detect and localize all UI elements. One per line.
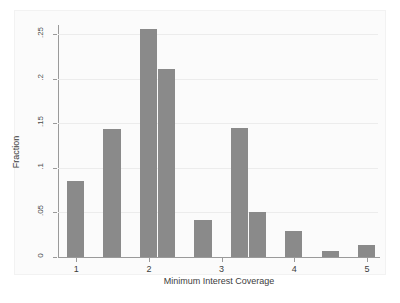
y-tick-label: .05	[36, 199, 45, 223]
x-tick-label: 4	[284, 264, 304, 274]
y-tick-mark	[53, 257, 57, 258]
gridline	[58, 34, 378, 35]
gridline	[58, 123, 378, 124]
x-axis-ticks: 12345	[58, 258, 380, 276]
x-axis-title: Minimum Interest Coverage	[58, 276, 380, 286]
x-tick-mark	[149, 258, 150, 262]
histogram-bar	[103, 129, 120, 257]
histogram-bar	[358, 245, 375, 257]
histogram-bar	[231, 128, 248, 257]
histogram-bar	[158, 69, 175, 257]
x-tick-mark	[367, 258, 368, 262]
x-tick-label: 1	[66, 264, 86, 274]
y-tick-label: 0	[36, 244, 45, 268]
histogram-bar	[67, 181, 84, 257]
x-tick-label: 5	[357, 264, 377, 274]
x-tick-mark	[294, 258, 295, 262]
x-tick-label: 3	[212, 264, 232, 274]
histogram-bar	[322, 251, 339, 257]
histogram-bar	[194, 220, 211, 257]
y-tick-label: .2	[36, 65, 45, 89]
y-tick-label: .25	[36, 20, 45, 44]
y-tick-label: .1	[36, 154, 45, 178]
histogram-figure: Fraction 0.05.1.15.2.25 12345 Minimum In…	[0, 0, 400, 303]
histogram-bar	[140, 29, 157, 257]
y-tick-label: .15	[36, 110, 45, 134]
y-tick-mark	[53, 34, 57, 35]
y-axis-title: Fraction	[11, 135, 21, 168]
x-tick-label: 2	[139, 264, 159, 274]
x-tick-mark	[76, 258, 77, 262]
y-tick-mark	[53, 79, 57, 80]
gridline	[58, 79, 378, 80]
histogram-bar	[249, 212, 266, 258]
y-tick-mark	[53, 168, 57, 169]
y-tick-mark	[53, 212, 57, 213]
plot-area: 0.05.1.15.2.25	[58, 25, 378, 257]
histogram-bar	[285, 231, 302, 257]
x-tick-mark	[222, 258, 223, 262]
y-tick-mark	[53, 123, 57, 124]
